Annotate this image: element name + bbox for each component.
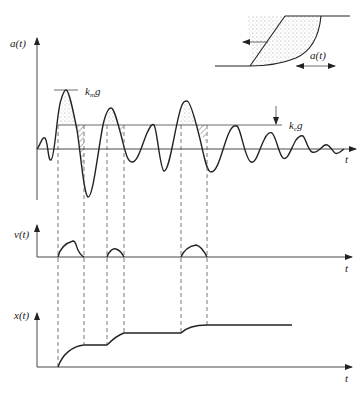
velocity-plot: v(t) t [14,225,352,274]
v-ylabel: v(t) [14,228,30,241]
velocity-curve [58,241,207,257]
x-xlabel: t [345,372,349,384]
slope-inset: a(t) [215,16,350,66]
displacement-plot: x(t) t [13,309,352,384]
x-ylabel: x(t) [13,309,30,322]
kmg-label: kmg [85,85,101,99]
kcg-label: kcg [289,119,303,133]
displacement-curve [58,325,292,367]
newmark-sliding-block-diagram: a(t) a(t) t kcg kmg v(t) [0,0,364,396]
v-xlabel: t [345,262,349,274]
a-ylabel: a(t) [10,37,26,50]
acceleration-plot: a(t) t kcg kmg [10,37,356,200]
inset-accel-label: a(t) [310,49,326,62]
a-xlabel: t [345,153,349,165]
